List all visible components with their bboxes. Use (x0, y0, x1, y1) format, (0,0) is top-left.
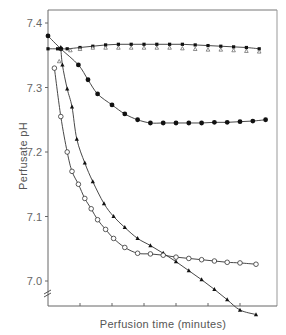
filled-square-marker (66, 47, 69, 50)
open-triangle-marker (142, 46, 146, 49)
filled-circle-marker (86, 77, 91, 82)
open-circle-marker (123, 245, 128, 250)
filled-square-marker (181, 43, 184, 46)
y-tick-label: 7.4 (27, 17, 42, 29)
series-filled-triangle (59, 45, 258, 316)
open-triangle-marker (193, 47, 197, 50)
open-triangle-marker (129, 46, 133, 49)
filled-circle-marker (263, 117, 268, 122)
filled-circle-marker (238, 119, 243, 124)
open-circle-marker (52, 66, 57, 71)
chart: 7.07.17.27.37.4 (0, 0, 286, 335)
open-triangle-marker (245, 49, 249, 52)
open-triangle-marker (57, 59, 61, 62)
filled-circle-marker (122, 112, 127, 117)
filled-circle-marker (174, 121, 179, 126)
filled-circle-marker (225, 120, 230, 125)
open-circle-marker (238, 261, 243, 266)
filled-circle-marker (199, 121, 204, 126)
open-circle-marker (103, 227, 108, 232)
filled-triangle-marker (225, 297, 229, 301)
open-circle-marker (76, 182, 81, 187)
filled-square-marker (46, 47, 49, 50)
filled-circle-marker (110, 103, 115, 108)
filled-triangle-marker (136, 236, 140, 240)
open-circle-marker (187, 256, 192, 261)
open-circle-marker (89, 206, 94, 211)
open-circle-marker (254, 262, 259, 267)
open-circle-marker (111, 236, 116, 241)
y-tick-label: 7.0 (27, 275, 42, 287)
filled-triangle-marker (212, 287, 216, 291)
series-line (61, 48, 256, 315)
filled-circle-marker (76, 63, 81, 68)
filled-circle-marker (95, 92, 100, 97)
filled-circle-marker (186, 121, 191, 126)
y-tick-label: 7.3 (27, 82, 42, 94)
open-triangle-marker (181, 47, 185, 50)
filled-triangle-marker (187, 268, 191, 272)
open-triangle-marker (168, 46, 172, 49)
open-triangle-marker (206, 48, 210, 51)
y-axis-ticks: 7.07.17.27.37.4 (27, 17, 48, 287)
filled-square-marker (194, 43, 197, 46)
open-circle-marker (59, 114, 64, 119)
open-circle-marker (212, 259, 217, 264)
filled-triangle-marker (91, 179, 95, 183)
open-circle-marker (161, 253, 166, 258)
filled-circle-marker (212, 120, 217, 125)
filled-triangle-marker (83, 161, 87, 165)
series-line (54, 68, 256, 264)
filled-circle-marker (135, 117, 140, 122)
series-open-triangle (57, 46, 261, 63)
filled-triangle-marker (65, 86, 69, 90)
open-circle-marker (135, 251, 140, 256)
y-axis-label: Perfusate pH (17, 111, 29, 201)
filled-triangle-marker (70, 104, 74, 108)
y-tick-label: 7.1 (27, 211, 42, 223)
open-triangle-marker (155, 46, 159, 49)
filled-circle-marker (148, 121, 153, 126)
filled-circle-marker (46, 34, 51, 39)
open-circle-marker (199, 257, 204, 262)
filled-triangle-marker (174, 259, 178, 263)
series-open-circle (52, 66, 258, 267)
x-axis-label: Perfusion time (minutes) (48, 318, 278, 330)
open-circle-marker (65, 150, 70, 155)
filled-circle-marker (250, 119, 255, 124)
open-circle-marker (70, 169, 75, 174)
open-triangle-marker (219, 48, 223, 51)
filled-circle-marker (161, 121, 166, 126)
open-circle-marker (174, 255, 179, 260)
open-circle-marker (95, 217, 100, 222)
filled-square-marker (206, 44, 209, 47)
filled-triangle-marker (60, 63, 64, 67)
open-triangle-marker (232, 49, 236, 52)
filled-triangle-marker (200, 277, 204, 281)
open-circle-marker (83, 196, 88, 201)
open-circle-marker (148, 252, 153, 257)
filled-triangle-marker (75, 137, 79, 141)
open-circle-marker (225, 260, 230, 265)
data-series (46, 34, 268, 317)
open-triangle-marker (117, 46, 121, 49)
